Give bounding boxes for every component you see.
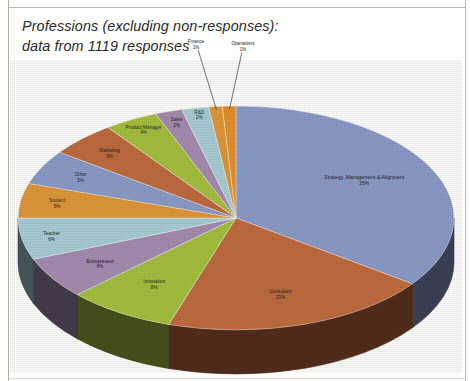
pie-slice-label-name: Sales (171, 117, 183, 122)
chart-title: Professions (excluding non-responses): d… (22, 16, 422, 57)
pie-slice-label-percent: 1% (232, 46, 255, 52)
page-bottom-rule (8, 378, 466, 379)
pie-slice-label-percent: 20% (269, 294, 291, 300)
pie-slice-label-name: Student (49, 198, 65, 203)
pie-slice-label: Teacher6% (43, 231, 60, 242)
pie-slice-label-percent: 35% (324, 180, 404, 186)
pie-slice-label-percent: 4% (126, 130, 162, 136)
pie-slice-label: Strategy, Management & Alignment35% (324, 174, 404, 186)
pie-slice-label: R&D2% (194, 109, 204, 120)
pie-chart-svg (10, 60, 462, 372)
pie-slice-label: Student5% (49, 198, 65, 209)
pie-slice-label-name: R&D (194, 109, 204, 114)
pie-slice-label-percent: 5% (99, 153, 120, 159)
page-top-rule (8, 7, 466, 8)
pie-slice-label-percent: 6% (86, 264, 113, 270)
pie-slice-label-name: Entrepreneur (86, 258, 113, 263)
pie-slice-label-percent: 1% (188, 44, 205, 50)
pie-slice-label: Product Manager4% (126, 124, 162, 135)
pie-slice-label: Innovation8% (143, 279, 165, 290)
pie-slice-label-name: Teacher (43, 231, 60, 236)
pie-slice-label: Sales2% (171, 117, 183, 128)
pie-slice-label: Consultant20% (269, 289, 291, 300)
pie-slice-label: Entrepreneur6% (86, 258, 113, 269)
pie-slice-label-name: Other (75, 172, 87, 177)
pie-slice-label-name: Marketing (99, 148, 120, 153)
pie-slice-label-percent: 2% (194, 115, 204, 121)
pie-slice-label-name: Operations (232, 41, 255, 46)
pie-slice-label-percent: 5% (75, 177, 87, 183)
pie-slice-label: Other5% (75, 172, 87, 183)
pie-chart: Strategy, Management & Alignment35%Consu… (10, 60, 462, 372)
pie-slice-label: Finance1% (188, 39, 205, 50)
page-right-rule (465, 0, 466, 381)
pie-slice-label-name: Consultant (269, 289, 291, 294)
pie-slice-label-name: Product Manager (126, 124, 162, 129)
page-left-rule (8, 0, 9, 381)
pie-slice-label-percent: 5% (49, 203, 65, 209)
pie-slice-label-percent: 6% (43, 236, 60, 242)
pie-slice-label-name: Innovation (143, 279, 165, 284)
pie-slice-label-percent: 2% (171, 122, 183, 128)
pie-slice-label: Operations1% (232, 41, 255, 52)
pie-slice-label-percent: 8% (143, 284, 165, 290)
pie-slice-label-name: Finance (188, 39, 205, 44)
pie-slice-label: Marketing5% (99, 148, 120, 159)
